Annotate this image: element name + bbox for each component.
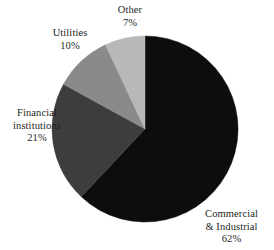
- slice-label-commercial-line1: Commercial: [189, 208, 274, 221]
- slice-label-utilities-percent: 10%: [36, 40, 104, 53]
- slice-label-financial-percent: 21%: [0, 132, 74, 145]
- slice-label-financial-line1: Financial: [0, 107, 74, 120]
- pie-chart-figure: Commercial & Industrial 62% Financial in…: [0, 0, 274, 250]
- slice-label-utilities: Utilities 10%: [36, 27, 104, 52]
- slice-label-financial-institutions: Financial institutions 21%: [0, 107, 74, 145]
- slice-label-commercial-percent: 62%: [189, 233, 274, 246]
- slice-label-financial-line2: institutions: [0, 120, 74, 133]
- slice-label-commercial-line2: & Industrial: [189, 221, 274, 234]
- pie-slice-group: [52, 36, 238, 222]
- slice-label-other: Other 7%: [98, 4, 162, 29]
- slice-label-other-percent: 7%: [98, 17, 162, 30]
- slice-label-commercial-industrial: Commercial & Industrial 62%: [189, 208, 274, 246]
- slice-label-utilities-line1: Utilities: [36, 27, 104, 40]
- slice-label-other-line1: Other: [98, 4, 162, 17]
